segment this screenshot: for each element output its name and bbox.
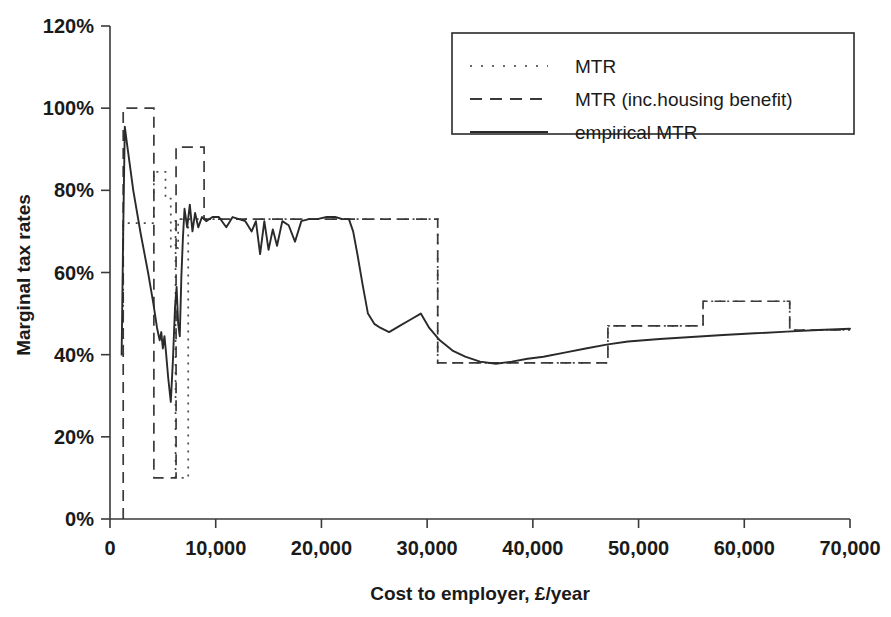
legend-box xyxy=(452,33,854,134)
legend-item-label: MTR xyxy=(575,56,616,77)
y-tick-label: 40% xyxy=(54,344,94,366)
x-tick-label: 10,000 xyxy=(185,537,246,559)
y-tick-label: 20% xyxy=(54,426,94,448)
x-tick-label: 70,000 xyxy=(819,537,880,559)
chart-container: 0%20%40%60%80%100%120% 010,00020,00030,0… xyxy=(0,0,891,617)
legend-item-label: empirical MTR xyxy=(575,122,697,143)
y-axis-tick-labels: 0%20%40%60%80%100%120% xyxy=(43,15,94,530)
data-series-group xyxy=(122,108,850,519)
series-line-dashed xyxy=(123,108,850,519)
x-axis-title: Cost to employer, £/year xyxy=(370,583,590,604)
x-tick-label: 0 xyxy=(104,537,115,559)
y-axis-title: Marginal tax rates xyxy=(13,194,34,356)
y-tick-marks xyxy=(101,26,110,519)
x-axis-tick-labels: 010,00020,00030,00040,00050,00060,00070,… xyxy=(104,537,880,559)
x-tick-label: 60,000 xyxy=(714,537,775,559)
y-tick-label: 100% xyxy=(43,97,94,119)
x-tick-label: 30,000 xyxy=(397,537,458,559)
x-tick-label: 50,000 xyxy=(608,537,669,559)
chart-legend: MTRMTR (inc.housing benefit)empirical MT… xyxy=(452,33,854,143)
y-tick-label: 80% xyxy=(54,179,94,201)
chart-svg: 0%20%40%60%80%100%120% 010,00020,00030,0… xyxy=(0,0,891,617)
series-line-solid xyxy=(122,127,850,402)
legend-item-label: MTR (inc.housing benefit) xyxy=(575,89,793,110)
x-tick-label: 40,000 xyxy=(502,537,563,559)
x-tick-marks xyxy=(110,519,850,528)
y-tick-label: 60% xyxy=(54,262,94,284)
y-tick-label: 120% xyxy=(43,15,94,37)
y-tick-label: 0% xyxy=(65,508,94,530)
x-tick-label: 20,000 xyxy=(291,537,352,559)
